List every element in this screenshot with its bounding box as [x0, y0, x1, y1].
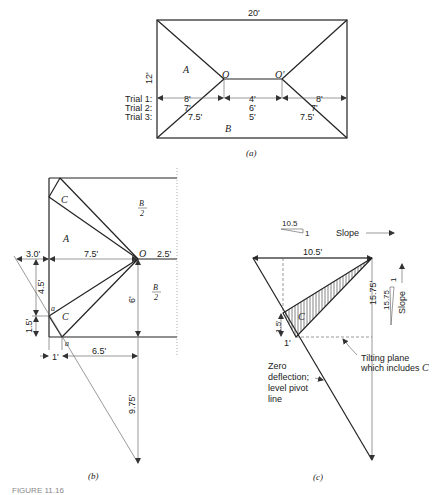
region-c-bottom-label: C: [62, 311, 69, 322]
region-c-label-c: C: [298, 311, 305, 322]
point-o-label-b: O: [139, 248, 146, 259]
slope-triangle-horizontal: [281, 229, 303, 233]
width-label: 20': [248, 8, 260, 18]
half-b-top-den: 2: [140, 209, 144, 218]
slope-v-rise: 1: [389, 277, 398, 282]
dim-1-5-c: 1.5': [274, 320, 283, 333]
trial-3-mid: 5': [249, 112, 256, 122]
region-a-label: A: [182, 64, 190, 75]
zero-label-line-4: line: [268, 394, 282, 404]
dim-3-0: 3.0': [26, 249, 41, 259]
region-b-label: B: [225, 123, 231, 134]
dim-6-5: 6.5': [92, 346, 107, 356]
trial-3-label: Trial 3:: [125, 112, 152, 122]
dim-1: 1': [52, 352, 59, 362]
figure-caption: FIGURE 11.16: [12, 486, 64, 495]
panel-c: 10.5 1 Slope 10.5' C 15.75' 15.75 1 Slop…: [253, 219, 429, 482]
dim-4-5: 4.5': [36, 279, 46, 294]
dim-1-c: 1': [284, 338, 291, 348]
caption-a: (a): [246, 148, 257, 158]
dim-2-5: 2.5': [157, 249, 172, 259]
half-b-bottom-den: 2: [154, 293, 158, 302]
slope-h-run: 10.5: [282, 219, 298, 228]
half-b-bottom-num: B: [153, 283, 158, 292]
dim-10-5: 10.5': [303, 247, 323, 257]
tilt-label-line-2: which includes: [360, 363, 420, 373]
region-c-hatched: [283, 258, 372, 337]
zero-label-line-3: level pivot: [268, 383, 309, 393]
trial-3-left: 7.5': [188, 112, 203, 122]
half-b-top-num: B: [139, 199, 144, 208]
trial-3-right: 7.5': [300, 112, 315, 122]
slope-h-rise: 1: [305, 229, 310, 238]
point-a-label-1: a: [51, 304, 55, 313]
height-label: 12': [144, 72, 154, 84]
dim-1-5: 1.5': [24, 318, 34, 333]
region-a-label-b: A: [62, 233, 70, 244]
region-c-top-label: C: [61, 194, 68, 205]
dim-6: 6': [127, 296, 137, 303]
tilt-label-c: C: [422, 362, 429, 373]
panel-a: 20' 12' A B O O' Trial 1: Trial 2: Trial…: [125, 8, 347, 158]
panel-b: C A C B 2 B 2 O a a 3.0' 7.5' 2.5' 4.5' …: [14, 168, 177, 481]
caption-c: (c): [313, 472, 323, 482]
dim-9-75: 9.75': [127, 394, 137, 414]
slope-v-run: 15.75: [382, 289, 391, 310]
slope-h-label: Slope: [336, 228, 359, 238]
caption-b: (b): [88, 471, 99, 481]
point-o-label: O: [222, 69, 229, 80]
dim-15-75: 15.75': [368, 280, 378, 305]
point-o-prime-label: O': [275, 69, 285, 80]
zero-label-line-1: Zero: [268, 361, 287, 371]
zero-label-line-2: deflection;: [268, 372, 309, 382]
slope-v-label: Slope: [397, 291, 407, 314]
dim-7-5: 7.5': [84, 249, 99, 259]
slab-yield-line-diagram: 20' 12' A B O O' Trial 1: Trial 2: Trial…: [0, 0, 444, 495]
tilt-label-line-1: Tilting plane: [361, 353, 409, 363]
point-a-label-2: a: [65, 339, 69, 348]
